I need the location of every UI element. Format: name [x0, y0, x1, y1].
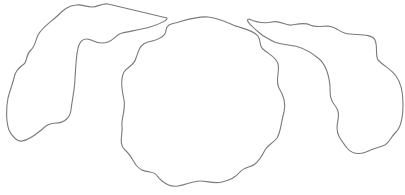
right-blob-outline	[248, 19, 404, 154]
center-blob-outline	[121, 17, 285, 186]
drawing-canvas	[0, 0, 405, 195]
left-blob-outline	[7, 4, 167, 141]
